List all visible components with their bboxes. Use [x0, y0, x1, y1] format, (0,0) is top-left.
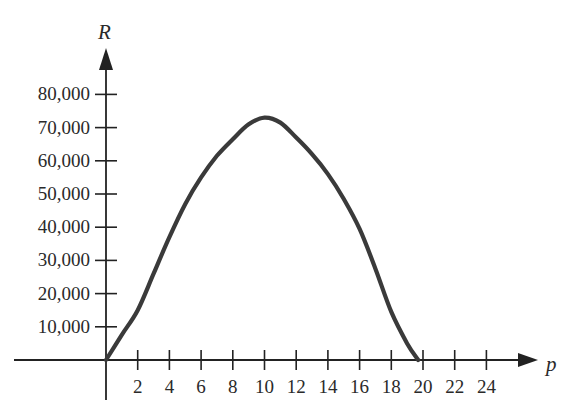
x-tick-label: 24: [477, 376, 497, 397]
x-axis-arrow-icon: [518, 353, 538, 367]
y-tick-label: 50,000: [38, 183, 90, 204]
y-tick-label: 10,000: [38, 316, 90, 337]
x-tick-label: 8: [228, 376, 238, 397]
x-tick-label: 10: [255, 376, 274, 397]
x-tick-label: 4: [165, 376, 175, 397]
x-tick-label: 20: [414, 376, 433, 397]
revenue-curve: [106, 118, 418, 360]
y-tick-label: 20,000: [38, 283, 90, 304]
x-tick-label: 14: [318, 376, 338, 397]
y-axis: 10,00020,00030,00040,00050,00060,00070,0…: [38, 20, 117, 400]
y-tick-label: 70,000: [38, 117, 90, 138]
x-tick-label: 22: [445, 376, 464, 397]
y-tick-label: 40,000: [38, 216, 90, 237]
y-tick-label: 60,000: [38, 150, 90, 171]
x-tick-label: 2: [133, 376, 143, 397]
x-tick-label: 18: [382, 376, 401, 397]
y-axis-arrow-icon: [99, 48, 113, 70]
x-ticks: 24681012141618202224: [133, 350, 496, 397]
y-tick-label: 30,000: [38, 249, 90, 270]
x-tick-label: 12: [287, 376, 306, 397]
x-tick-label: 6: [196, 376, 206, 397]
x-axis: 24681012141618202224 p: [14, 350, 557, 397]
y-tick-label: 80,000: [38, 83, 90, 104]
x-axis-title: p: [544, 352, 557, 376]
y-axis-title: R: [97, 20, 111, 44]
revenue-chart: 24681012141618202224 p 10,00020,00030,00…: [0, 0, 573, 417]
x-tick-label: 16: [350, 376, 369, 397]
